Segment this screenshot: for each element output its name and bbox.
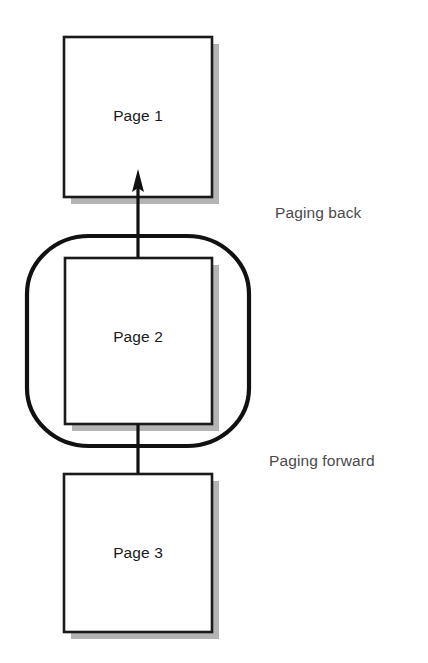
page-3-group[interactable]: Page 3	[64, 474, 212, 632]
paging-forward-annotation: Paging forward	[269, 452, 375, 469]
page-2-group[interactable]: Page 2	[65, 258, 219, 431]
diagram-canvas: Page 1 Page 2 Page 3 Paging back Paging …	[0, 0, 428, 663]
page-2-label: Page 2	[113, 328, 163, 345]
paging-back-annotation: Paging back	[275, 204, 362, 221]
page-3-label: Page 3	[113, 544, 163, 561]
page-1-label: Page 1	[113, 107, 163, 124]
paging-diagram: Page 1 Page 2 Page 3 Paging back Paging …	[0, 0, 428, 663]
